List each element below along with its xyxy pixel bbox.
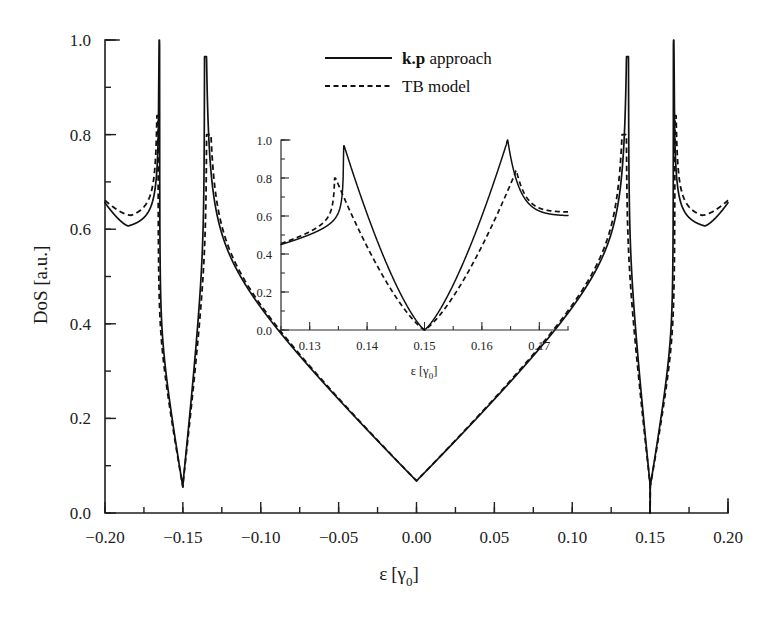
inset-y-tick-label: 0.8 [256,172,272,186]
y-tick-label: 0.0 [70,504,91,523]
inset-y-tick-label: 0.2 [256,286,272,300]
x-tick-label: 0.15 [635,528,665,547]
x-tick-label: 0.10 [557,528,587,547]
inset-x-tick-label: 0.14 [356,339,379,353]
inset-x-tick-label: 0.17 [528,339,550,353]
inset-x-tick-label: 0.15 [414,339,436,353]
figure-background [0,0,780,619]
x-tick-label: −0.10 [241,528,280,547]
legend-label-tb: TB model [402,77,471,96]
y-tick-label: 0.4 [70,315,92,334]
x-tick-label: −0.15 [163,528,202,547]
main-x-tick-labels: −0.20−0.15−0.10−0.050.000.050.100.150.20 [85,528,743,547]
main-y-axis-title: DoS [a.u.] [30,246,51,325]
inset-x-tick-label: 0.13 [299,339,321,353]
x-tick-label: 0.05 [480,528,510,547]
y-tick-label: 0.2 [70,409,91,428]
x-tick-label: −0.20 [85,528,124,547]
dos-figure: −0.20−0.15−0.10−0.050.000.050.100.150.20… [0,0,780,619]
y-tick-label: 0.8 [70,126,91,145]
x-tick-label: 0.00 [402,528,432,547]
inset-y-tick-label: 0.4 [256,248,272,262]
inset-y-tick-label: 0.0 [256,324,272,338]
legend-label-kp: k.p approach [402,49,492,68]
y-tick-label: 1.0 [70,31,91,50]
inset-y-tick-label: 1.0 [256,134,272,148]
x-tick-label: 0.20 [713,528,743,547]
inset-x-tick-label: 0.16 [471,339,493,353]
x-tick-label: −0.05 [319,528,358,547]
y-tick-label: 0.6 [70,220,91,239]
inset-y-tick-label: 0.6 [256,210,272,224]
